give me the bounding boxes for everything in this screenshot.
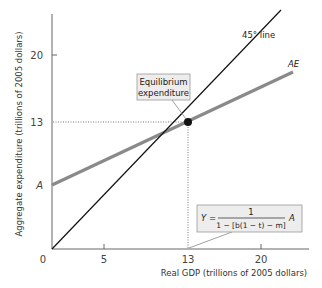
equilibrium-point [184,118,192,126]
formula-leader [189,232,232,248]
x-axis-title: Real GDP (trillions of 2005 dollars) [161,268,307,278]
equilibrium-label-2: expenditure [138,88,189,98]
y-tick-label-13: 13 [30,117,43,128]
formula-denominator: 1 − [b(1 − t) − m] [216,221,285,230]
x-tick-label-0: 0 [40,254,46,265]
line45-label: 45° line [242,30,275,40]
y-tick-label-a: A [35,180,43,191]
x-tick-label-5: 5 [101,254,107,265]
ae-label: AE [287,59,300,69]
formula-numerator: 1 [248,207,253,217]
formula-a: A [288,213,295,223]
x-tick-label-13: 13 [182,254,195,265]
y-tick-label-20: 20 [30,50,43,61]
x-tick-label-20: 20 [255,254,268,265]
chart: Equilibrium expenditure Y = 1 1 − [b(1 −… [0,0,322,288]
formula-y: Y = [201,213,216,223]
y-axis-title: Aggregate expenditure (trillions of 2005… [14,31,24,236]
equilibrium-label-1: Equilibrium [139,77,187,87]
